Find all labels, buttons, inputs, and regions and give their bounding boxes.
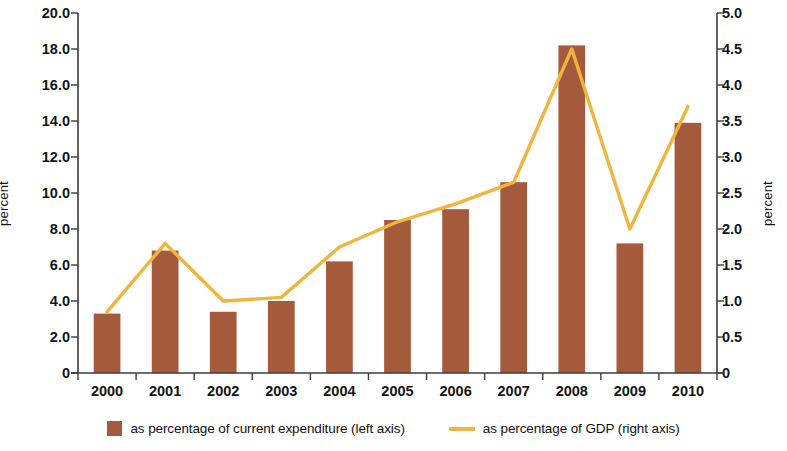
chart-legend: as percentage of current expenditure (le…: [0, 421, 787, 436]
x-tick-label: 2005: [381, 384, 413, 399]
legend-label-bars: as percentage of current expenditure (le…: [130, 421, 404, 436]
bar-2004: [326, 261, 353, 373]
x-tick-label: 2008: [556, 384, 588, 399]
right-tick-label: 0.5: [722, 330, 742, 345]
legend-item-bars: as percentage of current expenditure (le…: [107, 421, 404, 436]
left-axis-title: percent: [0, 181, 11, 226]
x-tick-label: 2007: [498, 384, 530, 399]
left-tick-label: 4.0: [50, 294, 70, 309]
chart-container: percent percent 02.04.06.08.010.012.014.…: [0, 0, 787, 451]
bar-2000: [94, 314, 121, 373]
line-series-swatch-icon: [449, 427, 475, 431]
right-tick-label: 4.0: [722, 78, 742, 93]
left-tick-label: 0: [62, 366, 70, 381]
bar-2005: [384, 220, 411, 373]
right-tick-label: 0: [722, 366, 730, 381]
left-tick-label: 18.0: [42, 42, 70, 57]
left-tick-label: 16.0: [42, 78, 70, 93]
gdp-percentage-line: [107, 49, 688, 312]
x-tick-label: 2004: [323, 384, 355, 399]
bar-2003: [268, 301, 295, 373]
left-tick-label: 12.0: [42, 150, 70, 165]
x-tick-label: 2003: [265, 384, 297, 399]
right-tick-label: 1.0: [722, 294, 742, 309]
bar-2009: [617, 243, 644, 373]
left-tick-label: 2.0: [50, 330, 70, 345]
x-tick-label: 2000: [91, 384, 123, 399]
x-tick-label: 2001: [149, 384, 181, 399]
right-tick-label: 3.5: [722, 114, 742, 129]
bar-2006: [442, 209, 469, 373]
x-tick-label: 2002: [207, 384, 239, 399]
bar-2008: [558, 45, 585, 373]
right-tick-label: 3.0: [722, 150, 742, 165]
right-tick-label: 4.5: [722, 42, 742, 57]
x-tick-label: 2009: [614, 384, 646, 399]
left-tick-label: 20.0: [42, 6, 70, 21]
bar-2001: [152, 251, 179, 373]
right-tick-label: 2.5: [722, 186, 742, 201]
right-axis-title: percent: [760, 181, 775, 226]
bar-2007: [500, 182, 527, 373]
left-tick-label: 14.0: [42, 114, 70, 129]
bar-series-swatch-icon: [107, 421, 122, 436]
x-tick-label: 2010: [672, 384, 704, 399]
legend-item-line: as percentage of GDP (right axis): [449, 421, 680, 436]
bar-2010: [675, 123, 702, 373]
left-tick-label: 10.0: [42, 186, 70, 201]
right-tick-label: 2.0: [722, 222, 742, 237]
bar-2002: [210, 312, 237, 373]
x-tick-label: 2006: [439, 384, 471, 399]
right-tick-label: 1.5: [722, 258, 742, 273]
left-tick-label: 8.0: [50, 222, 70, 237]
legend-label-line: as percentage of GDP (right axis): [483, 421, 680, 436]
right-tick-label: 5.0: [722, 6, 742, 21]
left-tick-label: 6.0: [50, 258, 70, 273]
